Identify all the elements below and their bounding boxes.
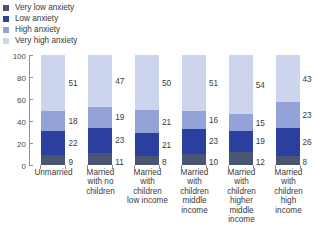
bar-segment: 11 <box>88 153 112 165</box>
y-axis-tick: 20 <box>29 143 33 144</box>
bar-segment: 19 <box>88 107 112 128</box>
legend-swatch-icon <box>3 16 9 22</box>
legend-item: Low anxiety <box>3 14 77 24</box>
bar-slot: 12191554 <box>217 55 264 165</box>
bar-segment-value: 26 <box>303 137 312 146</box>
legend-item: High anxiety <box>3 25 77 35</box>
bar-slot: 8212150 <box>124 55 171 165</box>
bar-segment: 54 <box>229 55 253 114</box>
x-axis-label: Unmarried <box>30 168 77 224</box>
bar-segment-value: 43 <box>303 74 312 83</box>
x-axis-label: Marriedwithchildrenlow income <box>124 168 171 224</box>
y-axis-tick-label: 40 <box>17 118 26 127</box>
y-axis-tick-label: 60 <box>17 96 26 105</box>
bar-slot: 8262343 <box>264 55 311 165</box>
bar-segment: 50 <box>135 55 159 110</box>
x-axis-label: Marriedwithchildrenhighincome <box>265 168 312 224</box>
bar-segment: 51 <box>41 55 65 111</box>
bar-segment: 8 <box>276 156 300 165</box>
bar-segment: 23 <box>88 128 112 153</box>
bar-segment: 47 <box>88 55 112 107</box>
bar-slot: 11231947 <box>77 55 124 165</box>
legend-swatch-icon <box>3 38 9 44</box>
legend-item: Very low anxiety <box>3 3 77 13</box>
legend-swatch-icon <box>3 5 9 11</box>
chart-legend: Very low anxietyLow anxietyHigh anxietyV… <box>3 3 77 46</box>
stacked-bar[interactable]: 8212150 <box>135 55 159 165</box>
stacked-bar[interactable]: 10231651 <box>182 55 206 165</box>
bar-slot: 9221851 <box>30 55 77 165</box>
y-axis-tick: 100 <box>29 55 33 56</box>
legend-item-label: Very low anxiety <box>15 3 74 13</box>
x-axis-labels: UnmarriedMarriedwith nochildrenMarriedwi… <box>30 168 312 224</box>
legend-swatch-icon <box>3 27 9 33</box>
legend-item-label: High anxiety <box>15 25 60 35</box>
legend-item-label: Very high anxiety <box>15 36 77 46</box>
x-axis-label: Marriedwithchildrenhighermiddleincome <box>218 168 265 224</box>
y-axis-tick-label: 80 <box>17 74 26 83</box>
x-axis-label: Marriedwithchildrenmiddleincome <box>171 168 218 224</box>
plot-area: 9221851112319478212150102316511219155482… <box>29 55 311 165</box>
bar-segment: 10 <box>182 154 206 165</box>
bar-segment: 26 <box>276 128 300 157</box>
bar-segment: 12 <box>229 152 253 165</box>
bar-segment: 19 <box>229 131 253 152</box>
stacked-bar[interactable]: 12191554 <box>229 55 253 165</box>
bar-segment-value: 11 <box>115 158 124 167</box>
bar-segment: 23 <box>276 102 300 127</box>
bar-segment-value: 9 <box>68 158 73 167</box>
bar-segment: 51 <box>182 55 206 111</box>
y-axis-tick-label: 0 <box>22 162 26 171</box>
bar-segment: 43 <box>276 55 300 102</box>
x-axis-label: Marriedwith nochildren <box>77 168 124 224</box>
bar-segment: 21 <box>135 133 159 156</box>
bar-segment-value: 23 <box>303 110 312 119</box>
bar-segment: 8 <box>135 156 159 165</box>
y-axis-tick: 60 <box>29 99 33 100</box>
bar-segment-value: 8 <box>162 158 167 167</box>
y-axis-tick: 80 <box>29 77 33 78</box>
bar-segment: 22 <box>41 131 65 155</box>
stacked-bar[interactable]: 9221851 <box>41 55 65 165</box>
legend-item: Very high anxiety <box>3 36 77 46</box>
bar-segment: 23 <box>182 129 206 154</box>
y-axis-tick-label: 100 <box>13 52 26 61</box>
bar-segment: 21 <box>135 110 159 133</box>
bar-slot: 10231651 <box>170 55 217 165</box>
bar-segment: 16 <box>182 111 206 129</box>
y-axis-tick-label: 20 <box>17 140 26 149</box>
bar-segment: 9 <box>41 155 65 165</box>
bar-segment: 15 <box>229 114 253 131</box>
y-axis-tick: 0 <box>29 165 33 166</box>
bar-segment: 18 <box>41 111 65 131</box>
stacked-bar[interactable]: 11231947 <box>88 55 112 165</box>
bar-group: 9221851112319478212150102316511219155482… <box>30 55 311 165</box>
legend-item-label: Low anxiety <box>15 14 58 24</box>
stacked-bar[interactable]: 8262343 <box>276 55 300 165</box>
bar-segment-value: 8 <box>303 158 308 167</box>
y-axis-tick: 40 <box>29 121 33 122</box>
